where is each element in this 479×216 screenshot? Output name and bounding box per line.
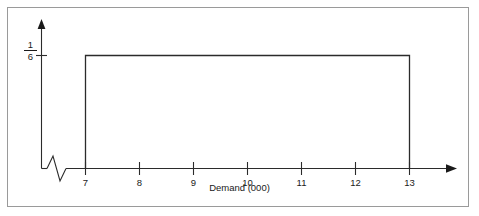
- y-axis-value-label: 1 6: [22, 39, 39, 62]
- axis-break-symbol: [47, 156, 66, 181]
- x-axis-title: Demand (000): [0, 182, 479, 194]
- arrow-up-icon: [38, 19, 46, 29]
- arrow-right-icon: [446, 164, 457, 172]
- uniform-density-curve: [86, 56, 410, 169]
- figure-container: 1 6 7 8 9 10 11 12 13 Demand (000): [0, 0, 479, 216]
- fraction-numerator: 1: [22, 39, 39, 50]
- fraction-denominator: 6: [22, 51, 39, 62]
